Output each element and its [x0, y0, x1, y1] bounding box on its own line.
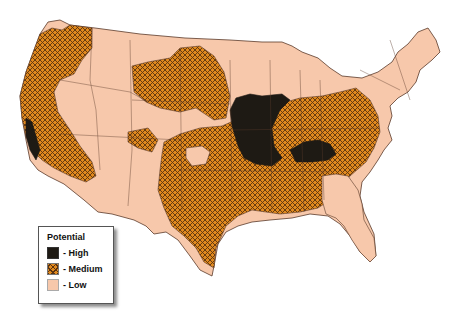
swatch-medium	[47, 263, 59, 275]
legend-title: Potential	[47, 232, 113, 242]
legend-item-medium: - Medium	[47, 261, 113, 277]
swatch-low	[47, 279, 59, 291]
map-legend: Potential - High - Medium - Low	[38, 226, 114, 304]
legend-label-low: - Low	[63, 280, 87, 290]
legend-label-high: - High	[63, 248, 89, 258]
region-low-florida	[322, 174, 376, 262]
region-low-central-plains	[186, 146, 210, 166]
legend-label-medium: - Medium	[63, 264, 103, 274]
legend-item-low: - Low	[47, 277, 113, 293]
swatch-high	[47, 247, 59, 259]
legend-item-high: - High	[47, 245, 113, 261]
